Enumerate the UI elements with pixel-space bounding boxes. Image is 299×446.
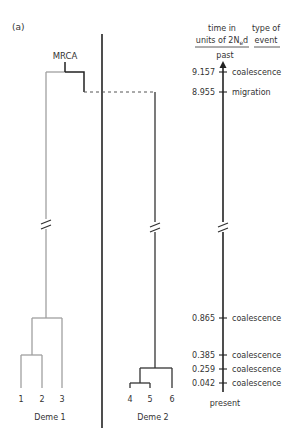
leaf-label-6: 6 [169, 395, 174, 404]
axis-break-mark [217, 222, 229, 232]
event-type-2: coalescence [232, 314, 281, 323]
event-type-1: migration [232, 88, 271, 97]
deme1-tree [21, 72, 65, 388]
past-label: past [216, 51, 233, 60]
deme1-break-mark [40, 219, 52, 229]
mrca-node [65, 62, 84, 92]
event-type-4: coalescence [232, 365, 281, 374]
event-header-line2: event [255, 36, 278, 45]
event-type-0: coalescence [232, 68, 281, 77]
deme2-label: Deme 2 [137, 413, 168, 422]
leaf-label-2: 2 [39, 395, 44, 404]
present-label: present [210, 399, 240, 408]
time-header-line2: units of 2Ned [196, 36, 248, 46]
event-time-4: 0.259 [192, 365, 215, 374]
event-time-1: 8.955 [192, 88, 215, 97]
time-header-line1: time in [208, 24, 236, 33]
event-time-0: 9.157 [192, 68, 215, 77]
leaf-label-1: 1 [18, 395, 23, 404]
panel-label: (a) [12, 22, 25, 32]
event-time-2: 0.865 [192, 314, 215, 323]
leaf-label-3: 3 [59, 395, 64, 404]
event-time-3: 0.385 [192, 351, 215, 360]
deme1-label: Deme 1 [34, 413, 65, 422]
event-header-line1: type of [252, 24, 280, 33]
mrca-label: MRCA [53, 51, 78, 61]
event-time-5: 0.042 [192, 379, 215, 388]
event-type-3: coalescence [232, 351, 281, 360]
deme2-break-mark [149, 222, 161, 232]
event-type-5: coalescence [232, 379, 281, 388]
coalescent-diagram: (a) MRCA 1 [0, 0, 299, 446]
deme2-tree [130, 92, 172, 388]
leaf-label-4: 4 [127, 395, 132, 404]
leaf-label-5: 5 [147, 395, 152, 404]
